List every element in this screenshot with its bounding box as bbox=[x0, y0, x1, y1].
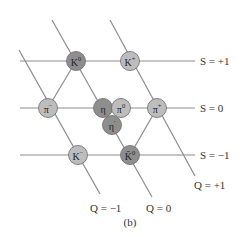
line-q-minus1 bbox=[19, 50, 100, 194]
q-label-minus1: Q = −1 bbox=[90, 202, 121, 214]
particle-Kplus: K+ bbox=[121, 52, 140, 71]
charge-labels: Q = −1 Q = 0 Q = +1 bbox=[90, 179, 225, 214]
particle-K0: K0 bbox=[67, 52, 86, 71]
figure-caption: (b) bbox=[124, 216, 137, 229]
s-label-0: S = 0 bbox=[200, 102, 224, 114]
particles: K0K+π−ηπ0π+η′K−K̄0 bbox=[39, 52, 167, 165]
particle-Kminus: K− bbox=[69, 146, 88, 165]
particle-etaprime: η′ bbox=[103, 116, 122, 135]
strangeness-labels: S = +1 S = 0 S = −1 bbox=[200, 55, 230, 161]
particle-eta: η bbox=[94, 99, 113, 118]
meson-nonet-diagram: K0K+π−ηπ0π+η′K−K̄0 S = +1 S = 0 S = −1 Q… bbox=[0, 0, 243, 237]
q-label-plus1: Q = +1 bbox=[194, 179, 225, 191]
s-label-minus1: S = −1 bbox=[200, 149, 230, 161]
q-label-0: Q = 0 bbox=[146, 202, 172, 214]
particle-K0bar: K̄0 bbox=[121, 146, 140, 165]
particle-pi0: π0 bbox=[112, 99, 131, 118]
particle-piminus: π− bbox=[39, 99, 58, 118]
particle-label: η bbox=[100, 103, 105, 114]
s-label-plus1: S = +1 bbox=[200, 55, 230, 67]
particle-piplus: π+ bbox=[148, 99, 167, 118]
